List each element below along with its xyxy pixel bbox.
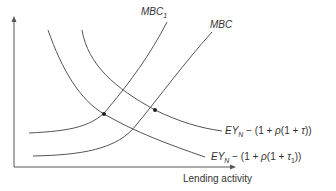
equilibrium-point-1 (102, 112, 106, 116)
demand-tau-label: EYN − (1 + ρ(1 + τ)) (225, 125, 312, 138)
mbc1-label: MBC1 (141, 6, 167, 19)
mbc-curve (33, 32, 212, 156)
axes (12, 16, 237, 170)
equilibrium-point-2 (153, 108, 157, 112)
mbc1-curve (29, 22, 167, 133)
demand-tau1-label: EYN − (1 + ρ(1 + τ1)) (211, 151, 301, 164)
mbc-label: MBC (210, 19, 233, 30)
demand-curve-tau1 (48, 30, 205, 157)
y-axis-arrow-icon (12, 16, 17, 22)
x-axis-label: Lending activity (183, 173, 252, 184)
diagram-canvas: MBC1 MBC EYN − (1 + ρ(1 + τ)) EYN − (1 +… (0, 0, 336, 191)
x-axis-arrow-icon (230, 165, 236, 170)
